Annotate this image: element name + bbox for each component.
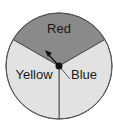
- sector-label-red: Red: [47, 21, 71, 36]
- spinner-diagram: Red Blue Yellow: [0, 0, 113, 121]
- sector-label-yellow: Yellow: [15, 67, 53, 82]
- spinner-hub: [56, 63, 63, 70]
- sector-label-blue: Blue: [71, 67, 97, 82]
